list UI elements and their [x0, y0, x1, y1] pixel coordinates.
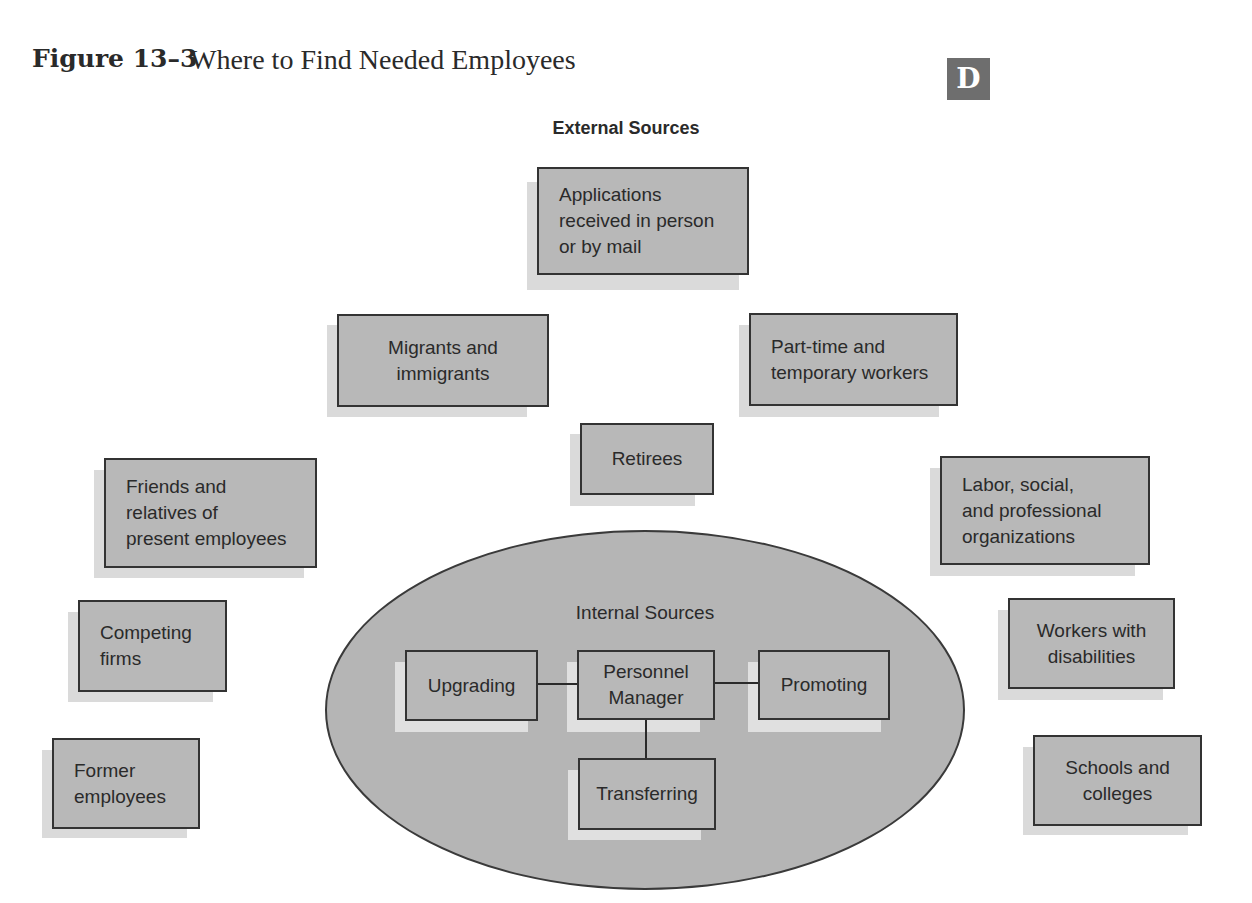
- box-line: colleges: [1083, 781, 1153, 807]
- box-line: Retirees: [612, 446, 683, 472]
- box-line: and professional: [962, 498, 1128, 524]
- box-line: Friends and: [126, 474, 295, 500]
- box-line: disabilities: [1048, 644, 1136, 670]
- box-line: Personnel: [603, 659, 689, 685]
- box-line: organizations: [962, 524, 1128, 550]
- box-line: firms: [100, 646, 205, 672]
- box-line: Migrants and: [388, 335, 498, 361]
- box-line: Schools and: [1065, 755, 1170, 781]
- section-badge: D: [947, 58, 990, 100]
- box-line: employees: [74, 784, 178, 810]
- box-line: Labor, social,: [962, 472, 1128, 498]
- source-labor: Labor, social, and professional organiza…: [940, 456, 1150, 565]
- box-line: temporary workers: [771, 360, 936, 386]
- source-friends: Friends and relatives of present employe…: [104, 458, 317, 568]
- figure-title: Where to Find Needed Employees: [190, 44, 576, 76]
- source-part-time: Part-time and temporary workers: [749, 313, 958, 406]
- box-line: Part-time and: [771, 334, 936, 360]
- box-line: Applications: [559, 182, 727, 208]
- box-line: Upgrading: [428, 673, 516, 699]
- box-line: Transferring: [596, 781, 698, 807]
- box-line: relatives of: [126, 500, 295, 526]
- personnel-manager: Personnel Manager: [577, 650, 715, 720]
- source-schools: Schools and colleges: [1033, 735, 1202, 826]
- figure-label: Figure 13–3: [32, 44, 197, 73]
- box-line: immigrants: [397, 361, 490, 387]
- box-line: Promoting: [781, 672, 868, 698]
- box-line: Workers with: [1037, 618, 1146, 644]
- source-applications: Applications received in person or by ma…: [537, 167, 749, 275]
- box-line: or by mail: [559, 234, 727, 260]
- method-transferring: Transferring: [578, 758, 716, 830]
- source-former: Former employees: [52, 738, 200, 829]
- box-line: Former: [74, 758, 178, 784]
- source-retirees: Retirees: [580, 423, 714, 495]
- source-competing: Competing firms: [78, 600, 227, 692]
- internal-sources-heading: Internal Sources: [560, 602, 730, 624]
- box-line: present employees: [126, 526, 295, 552]
- method-upgrading: Upgrading: [405, 650, 538, 721]
- external-sources-heading: External Sources: [0, 118, 1252, 139]
- box-line: Manager: [609, 685, 684, 711]
- method-promoting: Promoting: [758, 650, 890, 720]
- box-line: Competing: [100, 620, 205, 646]
- source-migrants: Migrants and immigrants: [337, 314, 549, 407]
- connector-promoting: [714, 682, 759, 684]
- source-workers-disabilities: Workers with disabilities: [1008, 598, 1175, 689]
- box-line: received in person: [559, 208, 727, 234]
- connector-transferring: [645, 719, 647, 759]
- connector-upgrading: [538, 683, 578, 685]
